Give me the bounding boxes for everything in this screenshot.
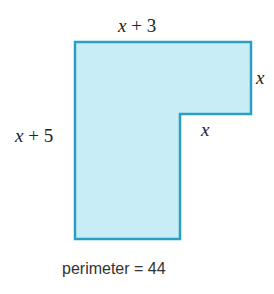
l-shape-diagram: x + 3 x x x + 5 perimeter = 44 [0,0,274,294]
l-shape-polygon [75,42,251,239]
right-side-label: x [256,68,264,87]
notch-side-label: x [201,120,209,139]
l-shape-svg [0,0,274,294]
top-side-label: x + 3 [118,16,156,35]
left-side-label: x + 5 [15,126,53,145]
perimeter-caption: perimeter = 44 [62,261,166,277]
